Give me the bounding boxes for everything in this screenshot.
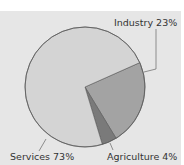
agriculture-label: Agriculture 4% — [107, 151, 177, 162]
services-leader-line — [39, 139, 46, 151]
pie-chart: Industry 23% Agriculture 4% Services 73% — [0, 0, 184, 165]
services-label: Services 73% — [10, 151, 74, 162]
pie-slices — [25, 27, 145, 147]
industry-leader-line — [144, 29, 156, 72]
industry-label: Industry 23% — [114, 17, 177, 28]
agriculture-leader-line — [110, 143, 113, 150]
